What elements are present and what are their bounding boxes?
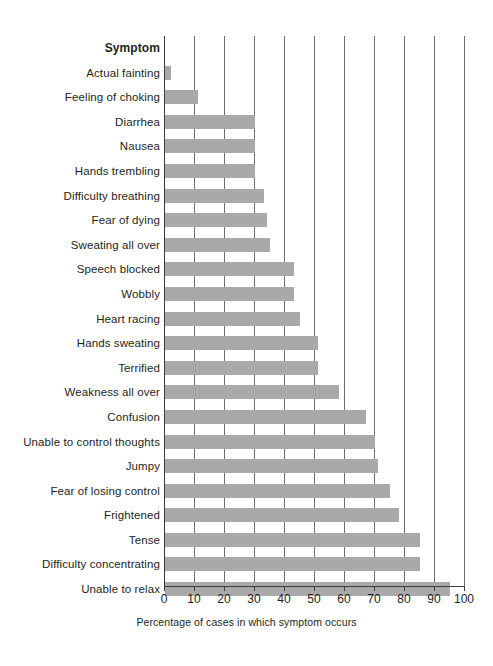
bar-label: Difficulty breathing (64, 184, 160, 209)
bar (165, 533, 420, 547)
bar (165, 385, 339, 399)
tick-mark-0 (164, 586, 165, 591)
bar-rows: Symptom Actual faintingFeeling of chokin… (0, 36, 493, 602)
bar (165, 139, 255, 153)
bar-label: Weakness all over (65, 380, 160, 405)
tick-mark-10 (194, 586, 195, 591)
bar-label: Sweating all over (71, 233, 160, 258)
table-row: Sweating all over (0, 233, 493, 258)
tick-label-40: 40 (277, 592, 290, 606)
bar (165, 262, 294, 276)
table-row: Jumpy (0, 454, 493, 479)
table-row: Frightened (0, 503, 493, 528)
table-row: Terrified (0, 356, 493, 381)
tick-label-10: 10 (187, 592, 200, 606)
bar-label: Unable to control thoughts (23, 430, 160, 455)
bar (165, 66, 171, 80)
bar-label: Confusion (107, 405, 160, 430)
bar-label: Actual fainting (86, 61, 160, 86)
tick-label-0: 0 (161, 592, 168, 606)
bar-label: Fear of dying (92, 208, 160, 233)
table-row: Fear of losing control (0, 479, 493, 504)
table-row: Feeling of choking (0, 85, 493, 110)
bar (165, 164, 255, 178)
bar-label: Diarrhea (115, 110, 160, 135)
bar-label: Terrified (118, 356, 160, 381)
bar-label: Frightened (104, 503, 160, 528)
bar-label: Difficulty concentrating (42, 552, 160, 577)
tick-label-90: 90 (427, 592, 440, 606)
tick-label-70: 70 (367, 592, 380, 606)
bar-label: Hands sweating (77, 331, 160, 356)
tick-label-50: 50 (307, 592, 320, 606)
bar (165, 115, 255, 129)
bar (165, 238, 270, 252)
table-row: Difficulty breathing (0, 184, 493, 209)
bar-label: Fear of losing control (50, 479, 160, 504)
bar-label: Feeling of choking (65, 85, 160, 110)
x-axis-caption: Percentage of cases in which symptom occ… (0, 616, 493, 628)
bar (165, 557, 420, 571)
bar (165, 189, 264, 203)
bar (165, 459, 378, 473)
tick-label-60: 60 (337, 592, 350, 606)
bar-label: Heart racing (96, 307, 160, 332)
bar (165, 287, 294, 301)
tick-mark-70 (374, 586, 375, 591)
bar-label: Jumpy (126, 454, 160, 479)
table-row: Wobbly (0, 282, 493, 307)
bar (165, 410, 366, 424)
column-header-symptom: Symptom (105, 36, 160, 61)
table-row: Tense (0, 528, 493, 553)
bar-label: Speech blocked (77, 257, 160, 282)
bar-label: Hands trembling (75, 159, 160, 184)
x-axis-tick-labels: 0102030405060708090100 (0, 592, 493, 608)
tick-mark-20 (224, 586, 225, 591)
tick-mark-50 (314, 586, 315, 591)
table-row: Speech blocked (0, 257, 493, 282)
tick-label-20: 20 (217, 592, 230, 606)
symptom-frequency-bar-chart: Symptom Actual faintingFeeling of chokin… (0, 0, 493, 666)
tick-label-100: 100 (454, 592, 474, 606)
table-row: Confusion (0, 405, 493, 430)
table-row: Hands sweating (0, 331, 493, 356)
bar-label: Tense (129, 528, 160, 553)
table-row: Actual fainting (0, 61, 493, 86)
bar (165, 435, 375, 449)
tick-label-80: 80 (397, 592, 410, 606)
bar (165, 90, 198, 104)
tick-mark-40 (284, 586, 285, 591)
bar-label: Nausea (120, 134, 160, 159)
table-row: Fear of dying (0, 208, 493, 233)
bar (165, 484, 390, 498)
tick-mark-30 (254, 586, 255, 591)
table-row: Heart racing (0, 307, 493, 332)
tick-mark-100 (464, 586, 465, 591)
tick-mark-90 (434, 586, 435, 591)
tick-mark-80 (404, 586, 405, 591)
tick-mark-60 (344, 586, 345, 591)
bar (165, 312, 300, 326)
table-header-row: Symptom (0, 36, 493, 61)
tick-label-30: 30 (247, 592, 260, 606)
bar (165, 508, 399, 522)
bar (165, 336, 318, 350)
table-row: Difficulty concentrating (0, 552, 493, 577)
table-row: Weakness all over (0, 380, 493, 405)
bar (165, 361, 318, 375)
bar-label: Wobbly (121, 282, 160, 307)
bar (165, 213, 267, 227)
table-row: Diarrhea (0, 110, 493, 135)
table-row: Hands trembling (0, 159, 493, 184)
table-row: Unable to control thoughts (0, 430, 493, 455)
table-row: Nausea (0, 134, 493, 159)
